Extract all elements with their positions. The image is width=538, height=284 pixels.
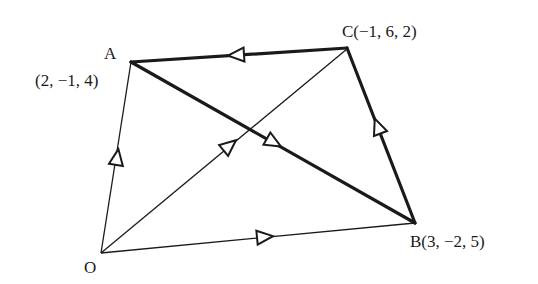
point-C-label: C(−1, 6, 2) <box>342 23 417 40</box>
arrow-OB-icon <box>256 229 273 244</box>
point-A-label: A <box>104 45 116 62</box>
point-B-label: B(3, −2, 5) <box>410 233 485 250</box>
edge-BC <box>347 48 415 223</box>
arrow-OA-icon <box>109 148 125 166</box>
arrow-BC-icon <box>368 116 387 136</box>
point-O-label: O <box>84 259 96 276</box>
arrow-AB-icon <box>263 132 284 152</box>
point-A-coords: (2, −1, 4) <box>35 72 98 89</box>
arrow-CA-icon <box>228 48 245 63</box>
